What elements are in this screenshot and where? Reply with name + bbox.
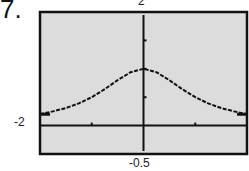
graph-window: [0, 0, 249, 171]
